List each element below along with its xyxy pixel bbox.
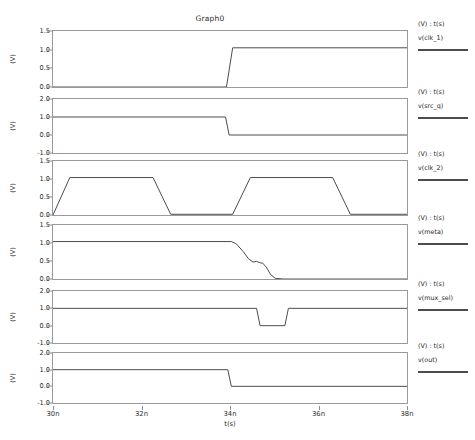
x-axis-label: t(s): [52, 420, 408, 428]
legend-block: (V) : t(s)v(mux_sel): [418, 280, 475, 311]
y-axis-tick-label: 1.5: [4, 221, 50, 229]
y-axis-label: (V): [9, 183, 17, 193]
y-axis-tick-mark: [47, 197, 52, 198]
y-axis-tick-label: 2.0: [4, 349, 50, 357]
legend-block: (V) : t(s)v(out): [418, 342, 475, 373]
legend-block: (V) : t(s)v(src_q): [418, 88, 475, 119]
legend-header: (V) : t(s): [418, 342, 475, 350]
legend-color-swatch: [418, 117, 468, 119]
y-axis-tick-mark: [47, 161, 52, 162]
y-axis-tick-label: 1.0: [4, 113, 50, 121]
y-axis-label: (V): [9, 247, 17, 257]
x-axis-tick-label: 38n: [401, 410, 414, 418]
y-axis-tick-mark: [47, 135, 52, 136]
legend-header: (V) : t(s): [418, 150, 475, 158]
waveform-viewer: Graph0 0.00.51.01.5(V)(V) : t(s)v(clk_1)…: [0, 0, 475, 440]
y-axis-tick-label: 2.0: [4, 287, 50, 295]
legend-header: (V) : t(s): [418, 280, 475, 288]
y-axis-tick-label: 0.0: [4, 382, 50, 390]
y-axis-tick-mark: [47, 308, 52, 309]
y-axis-tick-label: 0.5: [4, 193, 50, 201]
legend-block: (V) : t(s)v(clk_2): [418, 150, 475, 181]
waveform-trace: [53, 353, 407, 403]
y-axis-tick-label: 0.5: [4, 257, 50, 265]
legend-block: (V) : t(s)v(meta): [418, 214, 475, 245]
y-axis-tick-mark: [47, 369, 52, 370]
y-axis-tick-mark: [47, 99, 52, 100]
y-axis-tick-mark: [47, 117, 52, 118]
legend-block: (V) : t(s)v(clk_1): [418, 20, 475, 51]
x-axis-tick-label: 36n: [312, 410, 325, 418]
legend-header: (V) : t(s): [418, 88, 475, 96]
y-axis-tick-label: 1.5: [4, 27, 50, 35]
y-axis-tick-label: 0.0: [4, 211, 50, 219]
plot-area[interactable]: [52, 290, 408, 344]
y-axis-tick-mark: [47, 403, 52, 404]
legend-color-swatch: [418, 309, 468, 311]
y-axis-tick-label: 0.0: [4, 83, 50, 91]
x-axis-tick-label: 32n: [135, 410, 148, 418]
waveform-trace: [53, 225, 407, 279]
y-axis-tick-label: 0.0: [4, 275, 50, 283]
waveform-trace: [53, 291, 407, 343]
y-axis-tick-mark: [47, 31, 52, 32]
y-axis-tick-mark: [47, 225, 52, 226]
y-axis-tick-mark: [47, 386, 52, 387]
waveform-trace: [53, 161, 407, 215]
y-axis-tick-mark: [47, 279, 52, 280]
y-axis-tick-mark: [47, 243, 52, 244]
waveform-trace: [53, 31, 407, 87]
plot-area[interactable]: [52, 352, 408, 404]
legend-signal-name[interactable]: v(meta): [418, 228, 475, 236]
plot-area[interactable]: [52, 160, 408, 216]
page-title: Graph0: [0, 14, 420, 23]
legend-signal-name[interactable]: v(src_q): [418, 102, 475, 110]
y-axis-tick-label: -1.0: [4, 399, 50, 407]
y-axis-label: (V): [9, 373, 17, 383]
y-axis-tick-mark: [47, 68, 52, 69]
y-axis-label: (V): [9, 54, 17, 64]
y-axis-label: (V): [9, 312, 17, 322]
y-axis-tick-label: 1.0: [4, 304, 50, 312]
y-axis-tick-label: 2.0: [4, 95, 50, 103]
y-axis-tick-label: -1.0: [4, 149, 50, 157]
x-axis-tick-label: 30n: [47, 410, 60, 418]
y-axis-tick-mark: [47, 343, 52, 344]
y-axis-tick-mark: [47, 353, 52, 354]
legend-header: (V) : t(s): [418, 20, 475, 28]
y-axis-tick-mark: [47, 215, 52, 216]
y-axis-tick-label: -1.0: [4, 339, 50, 347]
y-axis-tick-label: 0.5: [4, 64, 50, 72]
y-axis-tick-label: 0.0: [4, 322, 50, 330]
x-axis-tick-label: 34n: [224, 410, 237, 418]
plot-area[interactable]: [52, 98, 408, 154]
y-axis-tick-mark: [47, 179, 52, 180]
y-axis-tick-mark: [47, 261, 52, 262]
legend-signal-name[interactable]: v(out): [418, 356, 475, 364]
y-axis-tick-label: 1.0: [4, 175, 50, 183]
plot-area[interactable]: [52, 30, 408, 88]
plot-area[interactable]: [52, 224, 408, 280]
y-axis-tick-label: 0.0: [4, 131, 50, 139]
legend-color-swatch: [418, 243, 468, 245]
legend-signal-name[interactable]: v(clk_1): [418, 34, 475, 42]
legend-signal-name[interactable]: v(mux_sel): [418, 294, 475, 302]
legend-header: (V) : t(s): [418, 214, 475, 222]
legend-color-swatch: [418, 49, 468, 51]
y-axis-tick-mark: [47, 153, 52, 154]
y-axis-tick-label: 1.5: [4, 157, 50, 165]
y-axis-tick-label: 1.0: [4, 239, 50, 247]
waveform-trace: [53, 99, 407, 153]
y-axis-tick-label: 1.0: [4, 46, 50, 54]
legend-color-swatch: [418, 179, 468, 181]
y-axis-tick-mark: [47, 87, 52, 88]
y-axis-label: (V): [9, 121, 17, 131]
y-axis-tick-mark: [47, 49, 52, 50]
y-axis-tick-mark: [47, 325, 52, 326]
legend-color-swatch: [418, 371, 468, 373]
legend-signal-name[interactable]: v(clk_2): [418, 164, 475, 172]
y-axis-tick-mark: [47, 291, 52, 292]
